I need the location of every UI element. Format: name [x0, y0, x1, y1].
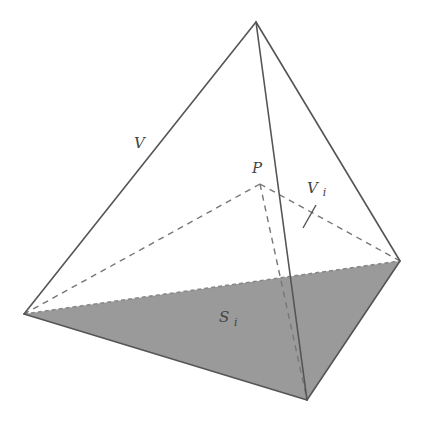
edge-apex-right [256, 22, 400, 261]
dashed-edge-p-right [260, 184, 400, 261]
tetrahedron-diagram: V P V i S i [0, 0, 425, 422]
label-si-main: S [219, 308, 229, 326]
label-si-sub: i [234, 316, 238, 329]
label-vi: V i [307, 179, 326, 199]
label-vi-main: V [307, 179, 320, 197]
vi-tick-mark [303, 205, 316, 228]
label-p: P [251, 159, 263, 177]
edge-apex-left [24, 22, 256, 314]
label-v: V [134, 134, 147, 152]
label-vi-sub: i [323, 186, 327, 199]
